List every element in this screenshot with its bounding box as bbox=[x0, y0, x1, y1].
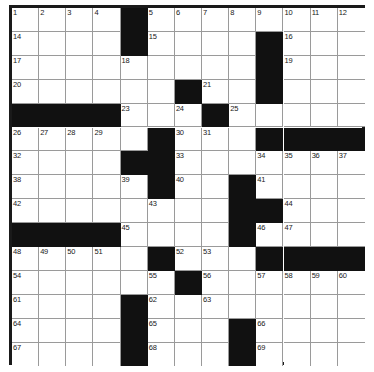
crossword-cell[interactable]: 20 bbox=[12, 80, 39, 104]
crossword-cell[interactable] bbox=[175, 56, 202, 80]
crossword-cell[interactable] bbox=[121, 80, 148, 104]
crossword-cell[interactable]: 50 bbox=[66, 247, 93, 271]
crossword-cell[interactable]: 43 bbox=[148, 199, 175, 223]
crossword-cell[interactable]: 62 bbox=[148, 295, 175, 319]
crossword-cell[interactable]: 64 bbox=[12, 319, 39, 343]
crossword-cell[interactable] bbox=[148, 104, 175, 128]
crossword-cell[interactable] bbox=[202, 175, 229, 199]
crossword-cell[interactable] bbox=[202, 32, 229, 56]
crossword-cell[interactable] bbox=[229, 56, 256, 80]
crossword-cell[interactable] bbox=[121, 271, 148, 295]
crossword-cell[interactable] bbox=[229, 128, 256, 152]
crossword-cell[interactable]: 10 bbox=[284, 8, 311, 32]
crossword-cell[interactable]: 4 bbox=[93, 8, 120, 32]
crossword-cell[interactable] bbox=[121, 128, 148, 152]
crossword-cell[interactable] bbox=[66, 295, 93, 319]
crossword-cell[interactable]: 25 bbox=[229, 104, 256, 128]
crossword-cell[interactable] bbox=[66, 343, 93, 367]
crossword-cell[interactable]: 5 bbox=[148, 8, 175, 32]
crossword-cell[interactable] bbox=[311, 343, 338, 367]
crossword-cell[interactable] bbox=[93, 151, 120, 175]
crossword-cell[interactable]: 45 bbox=[121, 223, 148, 247]
crossword-cell[interactable]: 61 bbox=[12, 295, 39, 319]
crossword-cell[interactable]: 68 bbox=[148, 343, 175, 367]
crossword-cell[interactable]: 41 bbox=[256, 175, 283, 199]
crossword-cell[interactable] bbox=[256, 104, 283, 128]
crossword-cell[interactable]: 59 bbox=[311, 271, 338, 295]
crossword-cell[interactable]: 32 bbox=[12, 151, 39, 175]
crossword-cell[interactable] bbox=[311, 175, 338, 199]
crossword-cell[interactable]: 29 bbox=[93, 128, 120, 152]
crossword-cell[interactable] bbox=[338, 223, 365, 247]
crossword-cell[interactable] bbox=[121, 247, 148, 271]
crossword-cell[interactable] bbox=[93, 271, 120, 295]
crossword-cell[interactable]: 47 bbox=[284, 223, 311, 247]
crossword-cell[interactable] bbox=[93, 175, 120, 199]
crossword-cell[interactable]: 36 bbox=[311, 151, 338, 175]
crossword-cell[interactable]: 23 bbox=[121, 104, 148, 128]
crossword-cell[interactable]: 6 bbox=[175, 8, 202, 32]
crossword-cell[interactable]: 27 bbox=[39, 128, 66, 152]
crossword-cell[interactable] bbox=[311, 199, 338, 223]
crossword-cell[interactable]: 26 bbox=[12, 128, 39, 152]
crossword-cell[interactable] bbox=[256, 295, 283, 319]
crossword-cell[interactable]: 69 bbox=[256, 343, 283, 367]
crossword-cell[interactable]: 46 bbox=[256, 223, 283, 247]
crossword-cell[interactable] bbox=[66, 32, 93, 56]
crossword-cell[interactable]: 19 bbox=[284, 56, 311, 80]
crossword-cell[interactable]: 57 bbox=[256, 271, 283, 295]
crossword-cell[interactable] bbox=[93, 56, 120, 80]
crossword-cell[interactable] bbox=[93, 199, 120, 223]
crossword-cell[interactable]: 21 bbox=[202, 80, 229, 104]
crossword-cell[interactable] bbox=[66, 175, 93, 199]
crossword-cell[interactable]: 30 bbox=[175, 128, 202, 152]
crossword-cell[interactable] bbox=[229, 32, 256, 56]
crossword-cell[interactable]: 38 bbox=[12, 175, 39, 199]
crossword-cell[interactable] bbox=[93, 32, 120, 56]
crossword-cell[interactable]: 40 bbox=[175, 175, 202, 199]
crossword-cell[interactable] bbox=[202, 223, 229, 247]
crossword-cell[interactable] bbox=[66, 319, 93, 343]
crossword-cell[interactable]: 42 bbox=[12, 199, 39, 223]
crossword-cell[interactable] bbox=[311, 295, 338, 319]
crossword-cell[interactable]: 48 bbox=[12, 247, 39, 271]
crossword-cell[interactable] bbox=[311, 223, 338, 247]
crossword-cell[interactable]: 1 bbox=[12, 8, 39, 32]
crossword-cell[interactable] bbox=[229, 247, 256, 271]
crossword-cell[interactable] bbox=[66, 199, 93, 223]
crossword-cell[interactable] bbox=[175, 199, 202, 223]
crossword-cell[interactable] bbox=[39, 32, 66, 56]
crossword-cell[interactable] bbox=[338, 319, 365, 343]
crossword-cell[interactable]: 2 bbox=[39, 8, 66, 32]
crossword-cell[interactable] bbox=[284, 175, 311, 199]
crossword-cell[interactable] bbox=[39, 199, 66, 223]
crossword-cell[interactable]: 28 bbox=[66, 128, 93, 152]
crossword-cell[interactable]: 51 bbox=[93, 247, 120, 271]
crossword-cell[interactable] bbox=[284, 319, 311, 343]
crossword-cell[interactable] bbox=[121, 199, 148, 223]
crossword-cell[interactable] bbox=[66, 80, 93, 104]
crossword-cell[interactable] bbox=[175, 295, 202, 319]
crossword-cell[interactable] bbox=[229, 80, 256, 104]
crossword-cell[interactable]: 67 bbox=[12, 343, 39, 367]
crossword-cell[interactable]: 12 bbox=[338, 8, 365, 32]
crossword-cell[interactable]: 55 bbox=[148, 271, 175, 295]
crossword-cell[interactable] bbox=[175, 32, 202, 56]
crossword-cell[interactable] bbox=[202, 151, 229, 175]
crossword-cell[interactable] bbox=[338, 175, 365, 199]
crossword-cell[interactable]: 8 bbox=[229, 8, 256, 32]
crossword-cell[interactable] bbox=[338, 343, 365, 367]
crossword-cell[interactable] bbox=[39, 175, 66, 199]
crossword-cell[interactable]: 16 bbox=[284, 32, 311, 56]
crossword-cell[interactable]: 3 bbox=[66, 8, 93, 32]
crossword-cell[interactable] bbox=[229, 271, 256, 295]
crossword-cell[interactable] bbox=[148, 223, 175, 247]
crossword-cell[interactable]: 53 bbox=[202, 247, 229, 271]
crossword-cell[interactable] bbox=[39, 80, 66, 104]
crossword-cell[interactable]: 56 bbox=[202, 271, 229, 295]
crossword-cell[interactable] bbox=[229, 151, 256, 175]
crossword-cell[interactable] bbox=[338, 104, 365, 128]
crossword-cell[interactable]: 15 bbox=[148, 32, 175, 56]
crossword-cell[interactable] bbox=[148, 80, 175, 104]
crossword-cell[interactable]: 37 bbox=[338, 151, 365, 175]
